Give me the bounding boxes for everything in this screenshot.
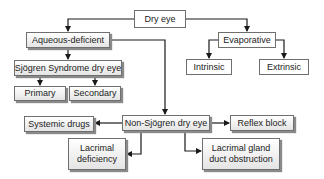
node-reflex-block: Reflex block xyxy=(230,115,294,131)
node-aqueous-deficient: Aqueous-deficient xyxy=(26,32,110,48)
node-label: Primary xyxy=(25,88,56,99)
node-label: Reflex block xyxy=(237,118,286,129)
node-non-sjogren: Non-Sjögren dry eye xyxy=(122,115,210,131)
node-label: Lacrimal gland duct obstruction xyxy=(203,143,279,165)
node-label: Non-Sjögren dry eye xyxy=(125,118,208,129)
node-label: Dry eye xyxy=(144,14,175,25)
node-extrinsic: Extrinsic xyxy=(259,59,309,75)
node-evaporative: Evaporative xyxy=(218,32,276,48)
node-secondary: Secondary xyxy=(69,86,121,101)
node-lacrimal-deficiency: Lacrimal deficiency xyxy=(68,138,126,170)
node-lacrimal-gland-duct-obstruction: Lacrimal gland duct obstruction xyxy=(202,138,280,170)
node-label: Evaporative xyxy=(223,35,271,46)
node-label: Secondary xyxy=(73,88,116,99)
node-label: Extrinsic xyxy=(267,62,301,73)
node-label: Intrinsic xyxy=(193,62,224,73)
node-label: Sjögren Syndrome dry eye xyxy=(15,63,122,74)
node-label: Lacrimal deficiency xyxy=(69,143,125,165)
node-label: Systemic drugs xyxy=(28,119,90,130)
node-systemic-drugs: Systemic drugs xyxy=(24,116,94,132)
node-label: Aqueous-deficient xyxy=(32,35,104,46)
node-dry-eye: Dry eye xyxy=(134,10,186,28)
node-sjogren-syndrome: Sjögren Syndrome dry eye xyxy=(14,60,122,76)
node-primary: Primary xyxy=(14,86,66,101)
node-intrinsic: Intrinsic xyxy=(186,59,232,75)
